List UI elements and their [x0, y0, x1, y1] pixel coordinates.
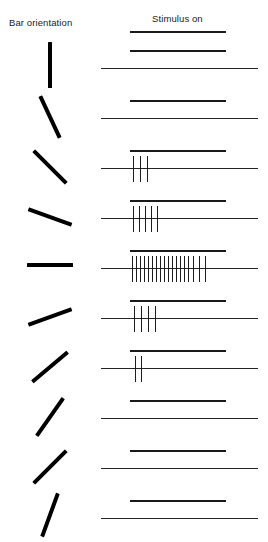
spike-tick [133, 156, 134, 182]
spike-train-baseline [101, 518, 258, 519]
spike-train-baseline [101, 418, 258, 419]
spike-train-row [0, 188, 268, 238]
spike-tick [148, 256, 149, 282]
spike-tick [184, 256, 185, 282]
spike-tick [172, 256, 173, 282]
spike-tick [199, 256, 200, 282]
spike-tick [205, 256, 206, 282]
spike-train-row [0, 388, 268, 438]
spike-tick [152, 256, 153, 282]
spike-tick [135, 356, 136, 382]
stimulus-on-marker [130, 200, 226, 202]
spike-tick [145, 206, 146, 232]
spike-train-baseline [101, 118, 258, 119]
spike-tick [141, 306, 142, 332]
spike-train-row [0, 438, 268, 488]
spike-tick [155, 306, 156, 332]
spike-tick [141, 356, 142, 382]
spike-train-baseline [101, 468, 258, 469]
spike-tick [140, 256, 141, 282]
spike-train-row [0, 338, 268, 388]
spike-tick [132, 256, 133, 282]
spike-tick [180, 256, 181, 282]
stimulus-on-marker [130, 350, 226, 352]
spike-train-row [0, 488, 268, 538]
spike-train-row [0, 38, 268, 88]
spike-tick [136, 256, 137, 282]
stimulus-on-marker [130, 50, 226, 52]
spike-tick [134, 306, 135, 332]
stimulus-on-marker [130, 500, 226, 502]
spike-tick [193, 256, 194, 282]
stimulus-on-marker [130, 250, 226, 252]
spike-tick [133, 206, 134, 232]
spike-tick [157, 206, 158, 232]
spike-tick [168, 256, 169, 282]
spike-tick [188, 256, 189, 282]
stimulus-on-marker [130, 150, 226, 152]
spike-tick [139, 206, 140, 232]
spike-train-baseline [101, 318, 258, 319]
spike-tick [147, 156, 148, 182]
spike-train-baseline [101, 368, 258, 369]
orientation-tuning-raster-figure: Bar orientation Stimulus on [0, 0, 268, 542]
spike-tick [160, 256, 161, 282]
spike-train-row [0, 138, 268, 188]
spike-train-row [0, 238, 268, 288]
spike-train-baseline [101, 68, 258, 69]
spike-tick [151, 206, 152, 232]
spike-tick [140, 156, 141, 182]
spike-tick [144, 256, 145, 282]
spike-train-row [0, 288, 268, 338]
spike-train-baseline [101, 168, 258, 169]
spike-tick [148, 306, 149, 332]
stimulus-on-marker [130, 400, 226, 402]
spike-tick [164, 256, 165, 282]
stimulus-on-marker [130, 100, 226, 102]
spike-train-column [0, 0, 268, 542]
spike-train-row [0, 88, 268, 138]
spike-tick [176, 256, 177, 282]
spike-tick [156, 256, 157, 282]
stimulus-on-marker [130, 300, 226, 302]
spike-train-baseline [101, 218, 258, 219]
stimulus-on-marker [130, 450, 226, 452]
